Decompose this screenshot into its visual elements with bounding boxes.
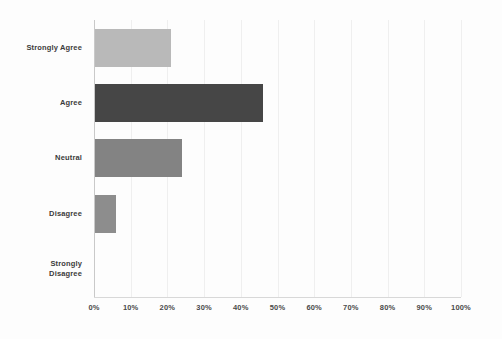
y-axis-label-strongly-agree: Strongly Agree [0, 20, 88, 75]
bar-chart: Strongly Agree Agree Neutral Disagree St… [0, 0, 502, 339]
bar-row [94, 75, 461, 130]
x-axis-tick-label: 0% [88, 303, 99, 312]
x-axis-tick-label: 60% [306, 303, 322, 312]
x-axis-tick-label: 20% [160, 303, 176, 312]
bar-row [94, 242, 461, 297]
x-axis-tick-label: 30% [196, 303, 212, 312]
x-axis-tick-label: 70% [343, 303, 359, 312]
y-axis-label-strongly-disagree: Strongly Disagree [0, 242, 88, 297]
x-axis-tick-label: 50% [270, 303, 286, 312]
x-axis-tick-label: 100% [451, 303, 471, 312]
bar-neutral [94, 139, 182, 177]
y-axis-line [94, 20, 95, 297]
x-axis-line [94, 297, 461, 298]
bar-disagree [94, 195, 116, 233]
y-axis-label-disagree: Disagree [0, 186, 88, 241]
y-axis-category-labels: Strongly Agree Agree Neutral Disagree St… [0, 20, 88, 297]
bar-row [94, 131, 461, 186]
gridline [461, 20, 462, 297]
y-axis-label-agree: Agree [0, 75, 88, 130]
x-axis-tick-label: 90% [416, 303, 432, 312]
x-axis-tick-labels: 0%10%20%30%40%50%60%70%80%90%100% [94, 303, 461, 319]
bar-row [94, 20, 461, 75]
x-axis-tick-label: 40% [233, 303, 249, 312]
x-axis-tick-label: 80% [380, 303, 396, 312]
plot-area [94, 20, 461, 297]
bar-rows [94, 20, 461, 297]
bar-agree [94, 84, 263, 122]
x-axis-tick-label: 10% [123, 303, 139, 312]
y-axis-label-neutral: Neutral [0, 131, 88, 186]
bar-strongly-agree [94, 29, 171, 67]
bar-row [94, 186, 461, 241]
